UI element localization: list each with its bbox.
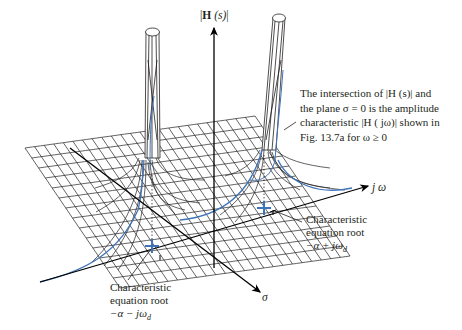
- root-upper-annotation: Characteristic equation root −α + jωd: [306, 213, 367, 256]
- figure-canvas: |H (s)| j ω σ The intersection of |H (s)…: [0, 0, 462, 330]
- root-lower-annotation: Characteristic equation root −α − jωd: [110, 281, 171, 324]
- intersection-note: The intersection of |H (s)| and the plan…: [300, 86, 440, 144]
- jw-axis-label: j ω: [372, 180, 386, 194]
- sigma-axis-label: σ: [262, 290, 268, 304]
- surface-plot: [0, 0, 462, 330]
- pole-left-column: [145, 28, 160, 158]
- magnitude-axis-label: |H (s)|: [200, 8, 229, 22]
